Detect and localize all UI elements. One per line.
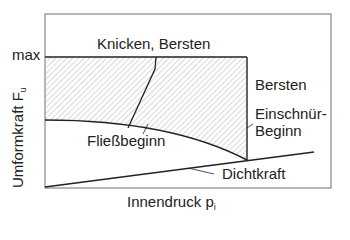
sealing-force-label: Dichtkraft <box>222 166 285 182</box>
necking-leader <box>247 124 253 128</box>
x-axis-label: Innendruck pi <box>127 194 216 215</box>
y-axis-label-subscript: u <box>18 87 28 92</box>
y-axis-label-text: Umformkraft F <box>9 92 26 188</box>
yield-begin-label: Fließbeginn <box>87 133 165 149</box>
necking-label-line2: Beginn <box>255 123 302 139</box>
necking-label-line1: Einschnür- <box>255 106 327 122</box>
max-tick-label: max <box>12 47 40 63</box>
sealing-leader <box>188 168 214 174</box>
region-label-bursting: Bersten <box>255 77 307 93</box>
y-axis-label: Umformkraft Fu <box>10 87 28 188</box>
x-axis-label-text: Innendruck p <box>127 193 214 210</box>
region-label-buckling-bursting: Knicken, Bersten <box>97 36 210 52</box>
x-axis-label-subscript: i <box>214 202 216 212</box>
